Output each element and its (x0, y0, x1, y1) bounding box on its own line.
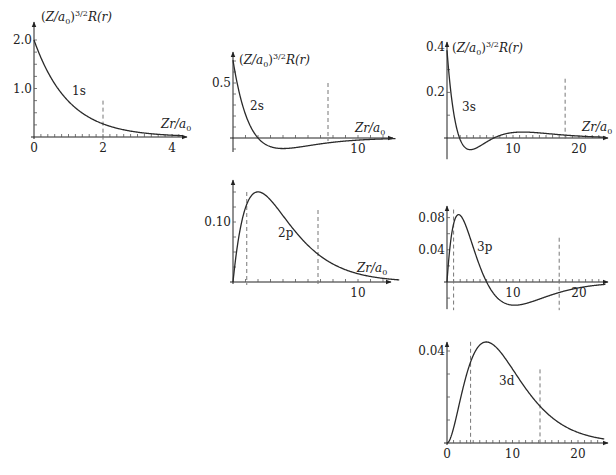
x-tick-label: 10 (350, 142, 365, 156)
x-tick-label: 10 (505, 286, 520, 300)
y-axis-label: (Z/a0)3/2R(r) (452, 40, 523, 57)
y-tick-label: 0.04 (418, 344, 445, 358)
panel-2s: 100.52s(Z/a0)3/2R(r)Zr/a0 (212, 52, 396, 156)
radial-wavefunction-figure: 0241.02.01s(Z/a0)3/2R(r)Zr/a0 100.52s(Z/… (0, 0, 616, 475)
x-tick-label: 0 (443, 447, 451, 461)
x-tick-label: 4 (168, 141, 176, 155)
x-axis-label: Zr/a0 (356, 261, 387, 277)
x-axis-label: Zr/a0 (354, 121, 385, 137)
y-axis-label: (Z/a0)3/2R(r) (41, 9, 112, 26)
y-axis-label: (Z/a0)3/2R(r) (239, 52, 310, 69)
y-tick-label: 0.08 (418, 211, 445, 225)
x-tick-label: 20 (571, 142, 586, 156)
panel-2p: 100.102pZr/a0 (204, 180, 399, 300)
y-tick-label: 1.0 (13, 82, 32, 96)
y-tick-label: 0.4 (426, 40, 445, 54)
y-tick-label: 2.0 (13, 33, 32, 47)
x-tick-label: 20 (570, 447, 585, 461)
y-tick-label: 0.2 (426, 85, 445, 99)
x-tick-label: 10 (505, 447, 520, 461)
panel-3d: 010200.043d (418, 342, 608, 461)
curve-label: 3s (462, 100, 476, 114)
panel-3p: 10200.040.083p (418, 206, 608, 310)
y-tick-label: 0.10 (204, 215, 231, 229)
x-axis-label: Zr/a0 (160, 117, 191, 133)
x-axis-label: Zr/a0 (581, 120, 612, 136)
x-tick-label: 10 (505, 142, 520, 156)
x-tick-label: 2 (99, 141, 107, 155)
curve-label: 2p (278, 226, 294, 240)
curve-label: 2s (250, 99, 264, 113)
panel-1s: 0241.02.01s(Z/a0)3/2R(r)Zr/a0 (13, 9, 191, 155)
x-tick-label: 0 (30, 141, 38, 155)
curve-label: 1s (72, 84, 86, 98)
y-tick-label: 0.5 (212, 76, 231, 90)
curve-label: 3d (499, 374, 515, 388)
curve-label: 3p (477, 240, 493, 254)
x-tick-label: 10 (350, 286, 365, 300)
y-tick-label: 0.04 (418, 243, 445, 257)
panel-3s: 10200.20.43s(Z/a0)3/2R(r)Zr/a0 (426, 40, 612, 159)
